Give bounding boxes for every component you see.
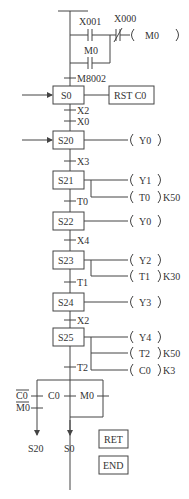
svg-text:S25: S25	[58, 332, 74, 343]
transition-x2: X2	[77, 105, 89, 116]
contact-x001-label: X001	[79, 16, 101, 27]
transition-x3: X3	[77, 156, 89, 167]
coil-m0-label: M0	[145, 30, 159, 41]
branch-section: C0 M0 C0 M0 S20 S0	[16, 380, 109, 454]
coil-m0-icon	[132, 29, 135, 41]
transition-t1: T1	[77, 277, 88, 288]
svg-text:T0: T0	[139, 192, 150, 203]
step-s24: S24 Y3 X2	[53, 293, 161, 326]
svg-text:T1: T1	[139, 271, 150, 282]
jump-target-s0: S0	[64, 443, 75, 454]
transition-x2: X2	[77, 315, 89, 326]
svg-text:K50: K50	[163, 348, 180, 359]
sfc-diagram: M0 X001 X000 M0 M8002 S0 RST C0 X2 X0 S2…	[0, 0, 189, 499]
step-s23: S23 Y2 T1 K30 T1	[53, 251, 180, 288]
svg-text:T2: T2	[139, 348, 150, 359]
contact-x000-label: X000	[114, 13, 136, 24]
svg-text:K3: K3	[163, 365, 175, 376]
step-s21: S21 Y1 T0 K50 T0	[53, 171, 180, 207]
transition-x4: X4	[77, 235, 89, 246]
transition-x0: X0	[77, 116, 89, 127]
svg-text:C0: C0	[139, 365, 151, 376]
svg-text:RST C0: RST C0	[114, 90, 146, 101]
cond-m0: M0	[80, 390, 94, 401]
step-s0: S0 RST C0 X2 X0	[22, 86, 154, 127]
contact-m0-label: M0	[84, 45, 98, 56]
svg-text:Y4: Y4	[139, 332, 151, 343]
svg-text:S24: S24	[58, 297, 74, 308]
svg-text:Y1: Y1	[139, 175, 151, 186]
step-s25: S25 Y4 T2 K50 C0 K3 T2	[53, 328, 180, 376]
step-s20: S20 Y0 X3	[22, 131, 161, 167]
step-s22: S22 Y0 X4	[53, 212, 161, 246]
svg-text:S23: S23	[58, 255, 74, 266]
cond-not-m0: M0	[16, 402, 30, 413]
cond-c0: C0	[48, 390, 60, 401]
transition-t2: T2	[77, 362, 88, 373]
cond-not-c0: C0	[16, 390, 28, 401]
svg-text:S21: S21	[58, 175, 74, 186]
svg-text:K30: K30	[163, 271, 180, 282]
ret-label: RET	[104, 434, 123, 445]
svg-text:Y0: Y0	[139, 216, 151, 227]
svg-text:Y0: Y0	[139, 135, 151, 146]
transition-t0: T0	[77, 196, 88, 207]
svg-text:S0: S0	[61, 90, 72, 101]
svg-text:Y3: Y3	[139, 297, 151, 308]
svg-text:S20: S20	[58, 135, 74, 146]
end-label: END	[103, 460, 124, 471]
jump-target-s20: S20	[28, 443, 44, 454]
transition-m8002: M8002	[77, 73, 106, 84]
svg-text:K50: K50	[163, 192, 180, 203]
svg-text:S22: S22	[58, 216, 74, 227]
svg-text:Y2: Y2	[139, 255, 151, 266]
